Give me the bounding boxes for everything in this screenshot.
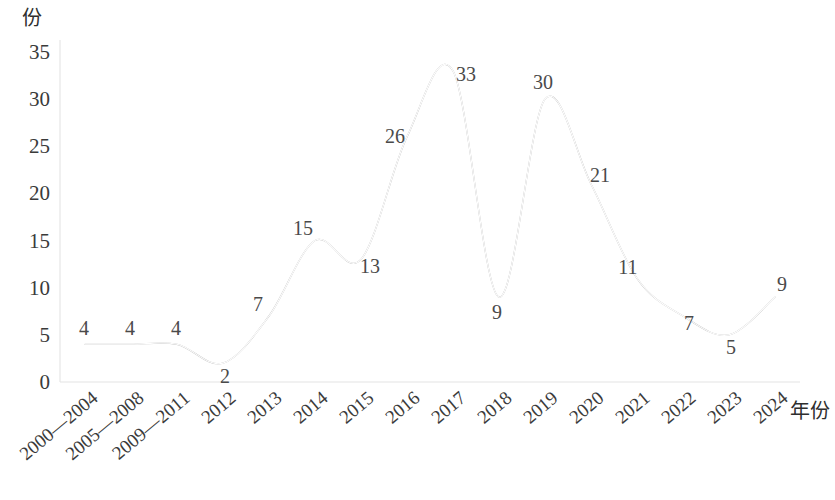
y-tick-label: 10	[29, 276, 50, 300]
data-point-label: 33	[456, 63, 476, 85]
series-line-highlight	[85, 64, 775, 364]
x-tick-label: 2021	[611, 387, 654, 428]
x-axis-tick-labels: 2000—20042005—20082009—20112012201320142…	[15, 387, 792, 464]
data-point-label: 9	[492, 301, 502, 323]
y-tick-label: 25	[29, 134, 50, 158]
data-point-label: 4	[79, 317, 89, 339]
x-tick-label: 2017	[427, 387, 470, 428]
x-tick-label: 2013	[243, 387, 286, 428]
x-axis-title: 年份	[790, 400, 830, 422]
y-tick-label: 0	[40, 370, 51, 394]
data-point-label: 4	[125, 317, 135, 339]
data-point-label: 21	[590, 164, 610, 186]
data-point-label: 15	[293, 217, 313, 239]
series-line	[85, 64, 775, 364]
y-tick-label: 20	[29, 181, 50, 205]
data-point-label: 13	[360, 255, 380, 277]
chart-canvas: 05101520253035 份 2000—20042005—20082009—…	[0, 0, 835, 500]
x-tick-label: 2012	[197, 387, 240, 428]
y-tick-label: 5	[40, 323, 51, 347]
y-tick-label: 35	[29, 40, 50, 64]
x-tick-label: 2015	[335, 387, 378, 428]
x-tick-label: 2016	[381, 387, 424, 428]
x-tick-label: 2020	[565, 387, 608, 428]
x-tick-label: 2024	[749, 387, 792, 428]
data-value-labels: 44427151326339302111759	[79, 63, 787, 387]
data-series	[85, 64, 775, 364]
data-point-label: 7	[684, 312, 694, 334]
x-tick-label: 2019	[519, 387, 562, 428]
y-axis-tick-labels: 05101520253035	[29, 40, 50, 394]
x-tick-label: 2018	[473, 387, 516, 428]
data-point-label: 2	[220, 365, 230, 387]
y-axis-title: 份	[22, 7, 42, 29]
data-point-label: 11	[618, 256, 637, 278]
x-tick-label: 2014	[289, 387, 332, 428]
line-chart: 05101520253035 份 2000—20042005—20082009—…	[0, 0, 835, 500]
data-point-label: 5	[726, 336, 736, 358]
x-tick-label: 2022	[657, 387, 700, 428]
y-tick-label: 15	[29, 229, 50, 253]
data-point-label: 26	[385, 125, 405, 147]
data-point-label: 7	[253, 293, 263, 315]
data-point-label: 30	[533, 71, 553, 93]
data-point-label: 4	[171, 317, 181, 339]
data-point-label: 9	[777, 273, 787, 295]
y-tick-label: 30	[29, 87, 50, 111]
x-tick-label: 2023	[703, 387, 746, 428]
